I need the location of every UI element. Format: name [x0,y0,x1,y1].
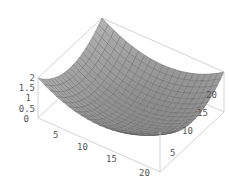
z-tick-label: 0 [24,114,29,124]
x-tick-label: 10 [77,142,88,152]
y-tick-label: 5 [170,148,175,158]
z-axis-ticks: 0 0.5 1 1.5 2 [19,73,35,124]
z-tick-label: 1.5 [19,83,35,93]
surface-plot-canvas: 0 0.5 1 1.5 2 5 10 15 20 5 10 15 20 [0,0,229,184]
z-tick-label: 0.5 [19,104,35,114]
z-tick-label: 1 [26,93,31,103]
y-tick-label: 10 [182,126,193,136]
z-tick-label: 2 [30,73,35,83]
x-axis-ticks: 5 10 15 20 [53,130,150,178]
x-tick-label: 15 [106,154,117,164]
surface-plot: 0 0.5 1 1.5 2 5 10 15 20 5 10 15 20 [0,0,229,184]
y-tick-label: 20 [206,90,217,100]
x-tick-label: 5 [53,130,58,140]
x-tick-label: 20 [139,168,150,178]
y-tick-label: 15 [197,108,208,118]
